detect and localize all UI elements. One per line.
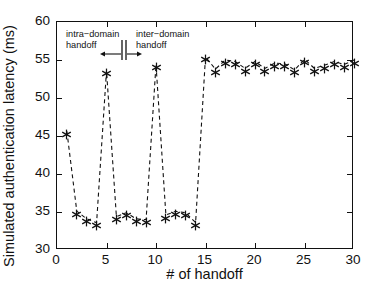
x-tick-label: 25 [284,253,324,267]
y-axis-tick [57,98,62,99]
y-axis-title-text: Simulated authentication latency (ms) [1,25,17,267]
y-axis-tick [57,212,62,213]
annotation-inter-domain: inter−domain handoff [136,29,189,50]
annotation-divider-arrows [100,40,142,60]
x-tick-label: 0 [36,253,76,267]
x-axis-tick [305,22,306,27]
x-axis-tick [206,22,207,27]
y-axis-tick [347,98,352,99]
y-axis-tick [347,136,352,137]
x-axis-title: # of handoff [56,266,353,282]
x-axis-tick [107,22,108,27]
y-axis-tick [347,212,352,213]
figure: Simulated authentication latency (ms) # … [0,0,371,292]
x-axis-tick [305,243,306,248]
y-axis-tick [57,60,62,61]
y-tick-label: 45 [16,128,50,142]
x-axis-tick [156,22,157,27]
y-axis-tick [347,174,352,175]
y-tick-label: 35 [16,204,50,218]
y-tick-label: 40 [16,166,50,180]
y-tick-label: 60 [16,14,50,28]
y-axis-tick [57,174,62,175]
x-axis-tick [107,243,108,248]
x-tick-label: 10 [135,253,175,267]
x-tick-label: 30 [333,253,371,267]
x-axis-tick [206,243,207,248]
y-axis-tick [57,136,62,137]
y-axis-tick [347,60,352,61]
x-axis-tick [156,243,157,248]
x-axis-tick [255,243,256,248]
x-tick-label: 20 [234,253,274,267]
y-tick-label: 50 [16,90,50,104]
y-tick-label: 55 [16,52,50,66]
x-axis-tick [255,22,256,27]
plot-area: intra−domain handoff inter−domain handof… [56,21,353,249]
x-tick-label: 15 [185,253,225,267]
x-tick-label: 5 [86,253,126,267]
